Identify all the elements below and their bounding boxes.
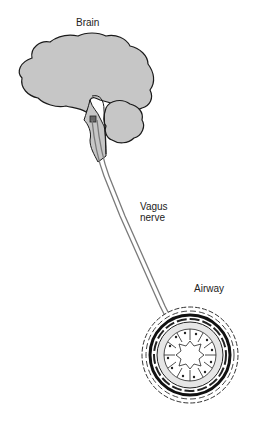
airway-lumen [176,341,204,369]
vagus-nerve-label-line2: nerve [140,212,165,223]
vagus-diagram [0,0,256,430]
airway-cross-section [142,307,238,403]
vagal-nucleus [90,116,96,122]
cerebellum [104,101,144,143]
vagus-nerve-label-line1: Vagus [140,201,168,212]
cerebrum [19,33,153,112]
brain-label: Brain [76,17,99,28]
airway-label: Airway [194,283,224,294]
